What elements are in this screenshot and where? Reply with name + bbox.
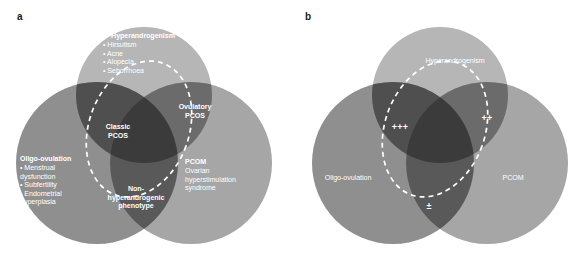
panel-b: b	[288, 0, 576, 266]
panel-a: a	[0, 0, 288, 266]
severity-mark-classic-pcos: +++	[380, 122, 420, 132]
severity-mark-non-hyperandrogenic: ±	[409, 201, 449, 211]
panel-a-venn-graphic	[0, 0, 288, 266]
severity-mark-ovulatory-pcos: ++	[467, 113, 507, 123]
pcos-phenotype-venn-figure: a	[0, 0, 576, 266]
panel-b-venn-graphic	[288, 0, 576, 266]
